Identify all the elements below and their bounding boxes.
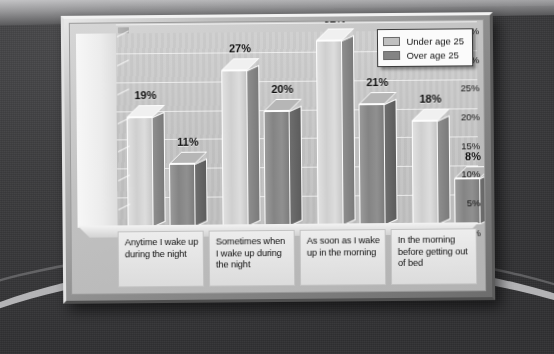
- chart-canvas: 19%11%27%20%32%21%18%8% 0%5%10%15%20%25%…: [69, 19, 486, 295]
- bar-front-face: [359, 104, 386, 225]
- bar-front-face: [264, 110, 291, 226]
- bar-value-label: 21%: [366, 76, 388, 88]
- bar-value-label: 18%: [419, 93, 441, 105]
- bar-front-face: [127, 117, 154, 227]
- bar[interactable]: [264, 110, 291, 226]
- bar-side-face: [385, 98, 398, 225]
- bar-side-face: [438, 115, 451, 224]
- bar[interactable]: [316, 41, 344, 226]
- category-label: Sometimes when I wake up during the nigh…: [209, 230, 295, 287]
- bar-front-face: [412, 121, 439, 225]
- bar[interactable]: [127, 117, 154, 227]
- bar-value-label: 27%: [229, 42, 251, 54]
- bar-front-face: [169, 163, 196, 227]
- y-axis-tick-label: 10%: [461, 169, 480, 180]
- category-label: Anytime I wake up during the night: [118, 231, 204, 288]
- legend-item[interactable]: Under age 25: [383, 33, 464, 48]
- gridline: [116, 21, 477, 25]
- legend-swatch: [383, 36, 400, 45]
- bar-value-label: 11%: [177, 135, 199, 147]
- chart-plaque: 19%11%27%20%32%21%18%8% 0%5%10%15%20%25%…: [61, 12, 495, 304]
- category-label-row: Anytime I wake up during the nightSometi…: [118, 228, 477, 287]
- bar-value-label: 19%: [134, 89, 156, 101]
- y-axis-wall: [76, 33, 120, 227]
- bar[interactable]: [221, 70, 248, 226]
- category-label: As soon as I wake up in the morning: [300, 229, 386, 286]
- bar-front-face: [221, 70, 248, 226]
- category-label: In the morning before getting out of bed: [391, 228, 477, 285]
- bar[interactable]: [359, 104, 386, 225]
- bar-side-face: [342, 35, 356, 225]
- chart-legend[interactable]: Under age 25Over age 25: [377, 28, 473, 67]
- y-axis-tick-label: 25%: [461, 82, 480, 93]
- bar-side-face: [247, 65, 260, 226]
- bar[interactable]: [412, 121, 439, 225]
- legend-label: Over age 25: [406, 49, 458, 60]
- bar-side-face: [290, 105, 303, 226]
- bar-value-label: 32%: [324, 19, 346, 25]
- bar[interactable]: [169, 163, 196, 227]
- legend-swatch: [383, 50, 400, 59]
- legend-label: Under age 25: [406, 35, 464, 47]
- bar-value-label: 20%: [271, 82, 293, 94]
- y-axis-tick-label: 20%: [461, 111, 480, 122]
- legend-item[interactable]: Over age 25: [383, 47, 464, 62]
- bar-side-face: [195, 158, 208, 227]
- bar-front-face: [316, 41, 344, 226]
- y-axis-tick-label: 15%: [461, 140, 480, 151]
- y-axis-tick-label: 5%: [467, 198, 481, 209]
- bar-value-label: 8%: [465, 150, 481, 162]
- bar-side-face: [153, 112, 166, 227]
